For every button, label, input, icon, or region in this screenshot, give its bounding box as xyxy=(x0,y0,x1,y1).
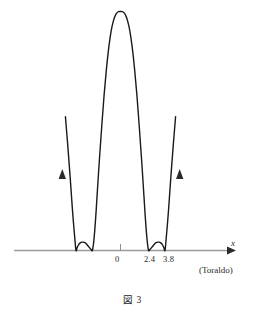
right-branch-arrow-icon xyxy=(176,169,183,179)
function-curve xyxy=(65,11,175,250)
x-tick-label-2-4: 2.4 xyxy=(144,254,155,264)
x-tick-label-3-8: 3.8 xyxy=(163,254,174,264)
figure-attribution: (Toraldo) xyxy=(199,265,233,275)
x-tick-label-0: 0 xyxy=(115,254,119,264)
x-axis-label: x xyxy=(231,238,235,248)
figure-caption: 図 3 xyxy=(0,292,265,306)
figure-container: 0 2.4 3.8 x (Toraldo) 図 3 xyxy=(0,0,265,313)
left-branch-arrow-icon xyxy=(59,169,66,179)
